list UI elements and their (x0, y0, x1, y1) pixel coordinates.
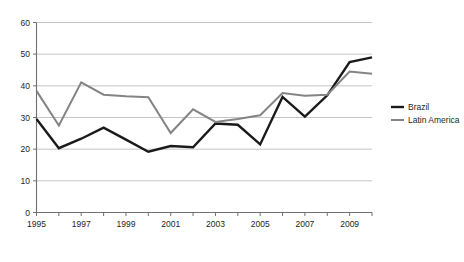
legend-label-latin-america: Latin America (408, 115, 460, 125)
y-tick-labels: 0102030405060 (21, 18, 31, 218)
y-tick-label-40: 40 (21, 81, 31, 91)
x-tick-labels: 19951997199920012003200520072009 (27, 219, 359, 229)
y-tick-label-20: 20 (21, 144, 31, 154)
y-tick-label-0: 0 (25, 208, 30, 218)
x-tick-label-2005: 2005 (251, 219, 270, 229)
series-line-latin-america (37, 72, 373, 133)
data-series (37, 57, 373, 151)
y-tick-label-30: 30 (21, 113, 31, 123)
x-tick-label-1999: 1999 (117, 219, 136, 229)
x-tick-label-2007: 2007 (295, 219, 314, 229)
legend-label-brazil: Brazil (408, 102, 429, 112)
legend: BrazilLatin America (391, 102, 460, 125)
x-axis (37, 213, 373, 217)
line-chart: 0102030405060 19951997199920012003200520… (0, 0, 464, 262)
y-tick-label-50: 50 (21, 49, 31, 59)
x-tick-label-2009: 2009 (340, 219, 359, 229)
series-line-brazil (37, 57, 373, 151)
x-tick-label-2003: 2003 (206, 219, 225, 229)
y-tick-label-60: 60 (21, 18, 31, 28)
y-tick-label-10: 10 (21, 176, 31, 186)
x-tick-label-1997: 1997 (72, 219, 91, 229)
x-tick-label-1995: 1995 (27, 219, 46, 229)
chart-canvas: 0102030405060 19951997199920012003200520… (0, 0, 464, 262)
x-tick-label-2001: 2001 (161, 219, 180, 229)
gridlines (37, 23, 373, 213)
y-axis (33, 23, 37, 213)
